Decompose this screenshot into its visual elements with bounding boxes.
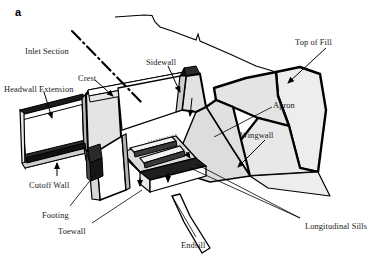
figure-panel: a Inlet Section Crest Headwall Extension… <box>0 0 386 270</box>
label-cutoff-wall: Cutoff Wall <box>29 181 69 190</box>
label-inlet-section: Inlet Section <box>25 47 69 56</box>
label-sidewall: Sidewall <box>146 58 176 67</box>
label-footing: Footing <box>42 211 69 220</box>
label-crest: Crest <box>78 74 96 83</box>
terrain-profile-line <box>115 15 276 72</box>
label-endsill: Endsill <box>181 241 205 250</box>
label-top-of-fill: Top of Fill <box>295 38 332 47</box>
label-wingwall: Wingwall <box>240 131 274 140</box>
label-toewall: Toewall <box>58 227 86 236</box>
label-longitudinal-sills: Longitudinal Sills <box>305 222 367 231</box>
label-apron: Apron <box>273 101 295 110</box>
label-headwall-extension: Headwall Extension <box>4 85 73 94</box>
panel-letter: a <box>15 6 21 18</box>
